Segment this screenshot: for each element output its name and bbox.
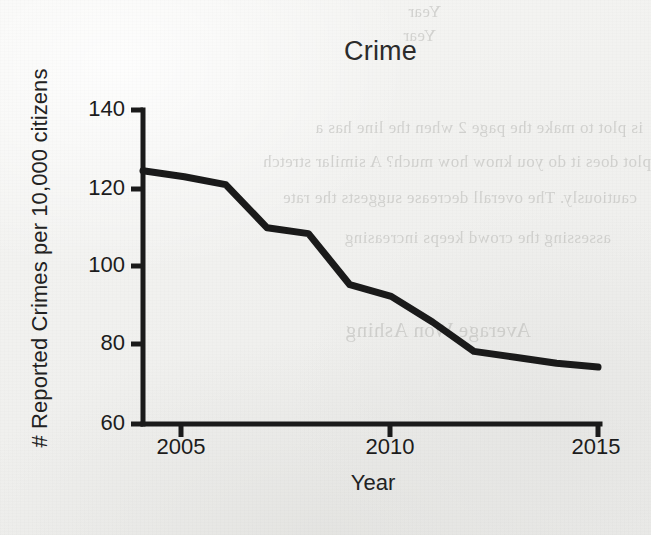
chart-screenshot: Year Year is plot to make the page 2 whe… (0, 0, 651, 535)
plot-svg (0, 0, 651, 535)
axes (131, 110, 600, 437)
data-series-line (143, 171, 598, 367)
chart: Crime # Reported Crimes per 10,000 citiz… (0, 0, 651, 535)
